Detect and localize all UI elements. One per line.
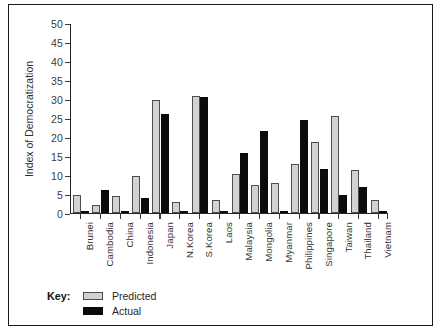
bar-actual-singapore	[320, 169, 328, 213]
bar-actual-vietnam	[379, 211, 387, 213]
bar-actual-thailand	[359, 187, 367, 213]
legend-label-actual: Actual	[112, 305, 141, 317]
bar-predicted-brunei	[73, 195, 81, 213]
y-tick-mark	[65, 81, 70, 82]
legend-item-actual: Actual	[83, 304, 141, 317]
y-tick-mark	[65, 100, 70, 101]
x-tick-mark	[239, 214, 240, 219]
plot-area: 05101520253035404550 BruneiCambodiaChina…	[70, 24, 388, 214]
y-tick-label: 0	[57, 208, 63, 220]
y-axis-title: Index of Democratization	[22, 24, 36, 214]
x-tick-mark	[100, 214, 101, 219]
x-label-singapore: Singapore	[323, 222, 334, 267]
bar-predicted-china	[112, 196, 120, 213]
y-tick-mark	[65, 157, 70, 158]
x-label-myanmar: Myanmar	[283, 222, 294, 263]
bar-actual-indonesia	[141, 198, 149, 213]
bar-actual-brunei	[81, 211, 89, 213]
x-label-vietnam: Vietnam	[382, 222, 393, 258]
x-label-malaysia: Malaysia	[243, 222, 254, 261]
x-tick-mark	[199, 214, 200, 219]
x-tick-mark	[338, 214, 339, 219]
x-tick-mark	[179, 214, 180, 219]
y-tick-mark	[65, 138, 70, 139]
legend-item-predicted: Predicted	[83, 289, 156, 302]
y-tick-label: 5	[57, 189, 63, 201]
y-tick-mark	[65, 24, 70, 25]
legend-swatch-actual	[83, 307, 103, 315]
y-tick-mark	[65, 195, 70, 196]
y-tick-mark	[65, 214, 70, 215]
bar-predicted-malaysia	[232, 174, 240, 213]
x-tick-mark	[378, 214, 379, 219]
bar-predicted-taiwan	[331, 116, 339, 213]
bar-actual-cambodia	[101, 190, 109, 213]
bar-actual-taiwan	[339, 195, 347, 213]
y-tick-label: 50	[51, 18, 63, 30]
x-label-mongolia: Mongolia	[263, 222, 274, 262]
bar-actual-myanmar	[280, 211, 288, 213]
bar-predicted-philippines	[291, 164, 299, 213]
y-tick-mark	[65, 119, 70, 120]
y-tick-label: 35	[51, 75, 63, 87]
x-label-laos: Laos	[223, 222, 234, 243]
x-tick-mark	[80, 214, 81, 219]
x-tick-mark	[299, 214, 300, 219]
bar-actual-mongolia	[260, 131, 268, 213]
y-tick-label: 40	[51, 56, 63, 68]
y-tick-label: 10	[51, 170, 63, 182]
bar-actual-skorea	[200, 97, 208, 213]
bar-predicted-thailand	[351, 170, 359, 213]
x-label-brunei: Brunei	[84, 222, 95, 250]
bar-actual-malaysia	[240, 153, 248, 213]
bar-predicted-laos	[212, 200, 220, 213]
bar-actual-japan	[161, 114, 169, 213]
legend-swatch-predicted	[83, 292, 103, 300]
x-label-china: China	[124, 222, 135, 248]
x-label-thailand: Thailand	[362, 222, 373, 260]
x-tick-mark	[120, 214, 121, 219]
x-label-philippines: Philippines	[303, 222, 314, 270]
x-label-skorea: S.Korea	[203, 222, 214, 257]
chart-figure: Index of Democratization 051015202530354…	[0, 0, 442, 331]
x-label-indonesia: Indonesia	[144, 222, 155, 265]
x-label-nkorea: N.Korea	[184, 222, 195, 258]
y-tick-mark	[65, 62, 70, 63]
bar-actual-philippines	[300, 120, 308, 213]
legend-title: Key:	[47, 290, 70, 302]
y-axis-line	[70, 24, 71, 214]
x-label-japan: Japan	[164, 222, 175, 249]
bar-actual-laos	[220, 211, 228, 213]
x-label-taiwan: Taiwan	[343, 222, 354, 252]
bar-predicted-myanmar	[271, 183, 279, 213]
bar-actual-china	[121, 211, 129, 213]
x-tick-mark	[259, 214, 260, 219]
bar-actual-nkorea	[180, 211, 188, 213]
x-tick-mark	[358, 214, 359, 219]
y-tick-mark	[65, 176, 70, 177]
bar-predicted-vietnam	[371, 200, 379, 213]
x-tick-mark-end	[387, 214, 388, 219]
legend-label-predicted: Predicted	[112, 290, 156, 302]
bar-predicted-mongolia	[251, 185, 259, 214]
bar-predicted-singapore	[311, 142, 319, 213]
y-tick-label: 45	[51, 37, 63, 49]
y-tick-mark	[65, 43, 70, 44]
x-tick-mark	[159, 214, 160, 219]
x-tick-mark	[140, 214, 141, 219]
x-axis-line	[70, 213, 388, 214]
y-tick-label: 25	[51, 113, 63, 125]
bar-predicted-cambodia	[92, 205, 100, 213]
x-tick-mark	[219, 214, 220, 219]
bar-predicted-skorea	[192, 96, 200, 213]
bar-predicted-japan	[152, 100, 160, 213]
x-label-cambodia: Cambodia	[104, 222, 115, 267]
y-tick-label: 30	[51, 94, 63, 106]
bar-predicted-nkorea	[172, 202, 180, 213]
x-tick-mark	[318, 214, 319, 219]
y-tick-label: 20	[51, 132, 63, 144]
bar-predicted-indonesia	[132, 176, 140, 213]
y-tick-label: 15	[51, 151, 63, 163]
x-tick-mark	[279, 214, 280, 219]
